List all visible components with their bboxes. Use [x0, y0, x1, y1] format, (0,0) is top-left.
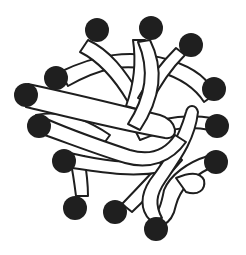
end-group-11: [52, 149, 76, 173]
end-group-3: [139, 16, 163, 40]
end-group-13: [14, 83, 38, 107]
end-group-6: [205, 114, 229, 138]
end-group-5: [202, 77, 226, 101]
end-group-12: [27, 114, 51, 138]
end-group-9: [103, 200, 127, 224]
end-group-10: [63, 196, 87, 220]
polymer-micelle-diagram: [0, 0, 246, 255]
end-group-4: [179, 33, 203, 57]
end-group-8: [144, 217, 168, 241]
end-group-7: [204, 150, 228, 174]
end-group-2: [85, 18, 109, 42]
diagram-canvas: [0, 0, 246, 255]
end-group-1: [44, 66, 68, 90]
